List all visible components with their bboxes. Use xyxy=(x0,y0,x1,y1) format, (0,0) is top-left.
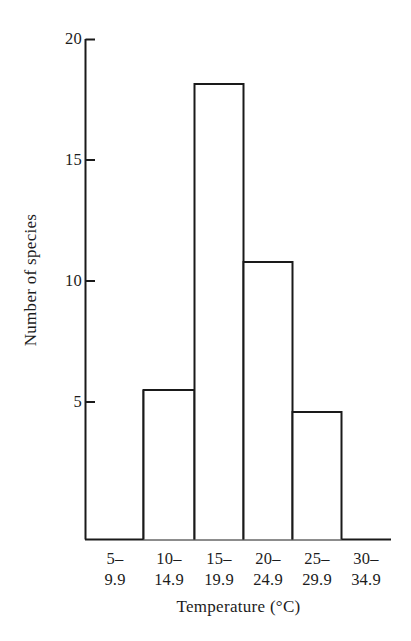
bar-20-24-9 xyxy=(244,262,293,540)
histogram-figure: 20 15 10 5 Number of species 5– 9.9 10– … xyxy=(0,0,411,641)
x-tick-label-3: 20– 24.9 xyxy=(242,548,294,590)
x-tick-label-4: 25– 29.9 xyxy=(291,548,343,590)
x-tick-label-4-line2: 29.9 xyxy=(291,569,343,590)
bar-15-19-9 xyxy=(195,84,244,540)
bar-25-29-9 xyxy=(293,412,342,540)
x-tick-label-2-line2: 19.9 xyxy=(193,569,245,590)
y-tick-label-20: 20 xyxy=(42,31,82,48)
x-axis-title: Temperature (°C) xyxy=(86,597,391,617)
x-tick-label-5: 30– 34.9 xyxy=(340,548,392,590)
x-tick-label-3-line1: 20– xyxy=(242,548,294,569)
x-tick-label-3-line2: 24.9 xyxy=(242,569,294,590)
x-tick-label-2: 15– 19.9 xyxy=(193,548,245,590)
x-tick-label-1-line2: 14.9 xyxy=(143,569,195,590)
x-tick-label-0-line2: 9.9 xyxy=(89,569,141,590)
y-axis-title: Number of species xyxy=(8,150,54,410)
x-tick-label-5-line2: 34.9 xyxy=(340,569,392,590)
x-tick-label-0: 5– 9.9 xyxy=(89,548,141,590)
x-tick-label-1-line1: 10– xyxy=(143,548,195,569)
x-tick-label-4-line1: 25– xyxy=(291,548,343,569)
y-axis-title-text: Number of species xyxy=(21,214,41,347)
x-tick-label-5-line1: 30– xyxy=(340,548,392,569)
x-tick-label-1: 10– 14.9 xyxy=(143,548,195,590)
x-tick-label-2-line1: 15– xyxy=(193,548,245,569)
x-tick-label-0-line1: 5– xyxy=(89,548,141,569)
bar-10-14-9 xyxy=(144,390,195,540)
histogram-plot-area xyxy=(0,0,411,641)
